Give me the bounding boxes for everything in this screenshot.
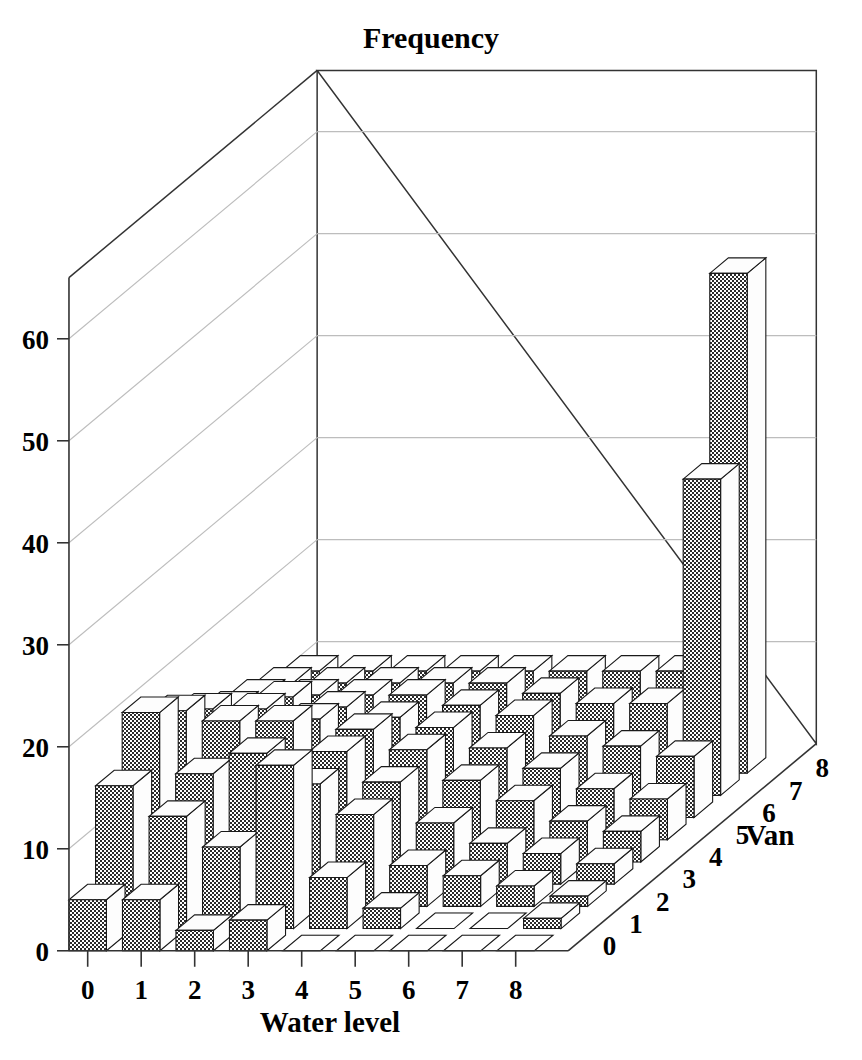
y-tick-label: 40 bbox=[22, 529, 49, 559]
y-tick-label: 0 bbox=[35, 937, 49, 967]
z-tick-label: 0 bbox=[603, 931, 617, 961]
x-tick-label: 6 bbox=[402, 975, 416, 1005]
three-d-bar-chart: 0102030405060012345678012345678 Frequenc… bbox=[0, 0, 862, 1060]
x-tick-label: 1 bbox=[134, 975, 148, 1005]
bar bbox=[69, 884, 125, 951]
bar bbox=[417, 913, 473, 929]
x-tick-label: 4 bbox=[295, 975, 309, 1005]
bar bbox=[256, 750, 312, 929]
x-tick-label: 0 bbox=[81, 975, 95, 1005]
x-axis-label: Water level bbox=[260, 1006, 400, 1038]
bar bbox=[310, 862, 366, 929]
bar bbox=[443, 935, 499, 951]
y-tick-label: 20 bbox=[22, 733, 49, 763]
y-tick-label: 10 bbox=[22, 835, 49, 865]
bar bbox=[283, 935, 339, 951]
z-tick-label: 4 bbox=[709, 842, 723, 872]
x-tick-label: 5 bbox=[348, 975, 362, 1005]
chart-canvas: 0102030405060012345678012345678 Frequenc… bbox=[0, 0, 862, 1060]
z-tick-label: 7 bbox=[789, 776, 803, 806]
x-tick-label: 3 bbox=[241, 975, 255, 1005]
chart-title: Frequency bbox=[363, 21, 499, 54]
z-tick-label: 1 bbox=[629, 909, 643, 939]
bar bbox=[497, 935, 553, 951]
x-tick-label: 8 bbox=[509, 975, 523, 1005]
y-tick-label: 50 bbox=[22, 427, 49, 457]
bar bbox=[390, 935, 446, 951]
z-tick-label: 8 bbox=[815, 753, 829, 783]
x-tick-label: 2 bbox=[188, 975, 202, 1005]
y-tick-label: 30 bbox=[22, 631, 49, 661]
bar bbox=[336, 935, 392, 951]
z-tick-label: 2 bbox=[656, 887, 670, 917]
z-axis-label: Van bbox=[746, 819, 795, 851]
bar bbox=[122, 884, 178, 951]
x-tick-label: 7 bbox=[455, 975, 469, 1005]
z-tick-label: 3 bbox=[682, 864, 696, 894]
bar bbox=[470, 913, 526, 929]
y-tick-label: 60 bbox=[22, 325, 49, 355]
